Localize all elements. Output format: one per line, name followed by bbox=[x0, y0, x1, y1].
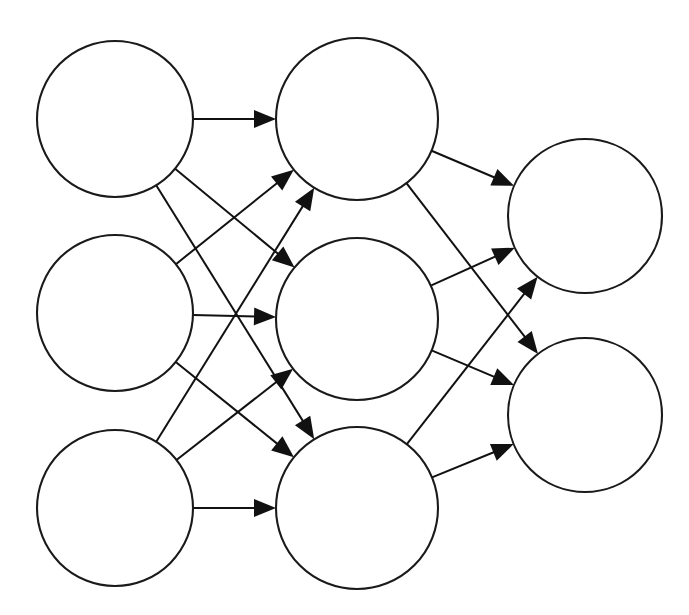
edge-i2-to-h3 bbox=[176, 362, 284, 449]
arrowhead-i2-to-h1 bbox=[271, 170, 294, 191]
arrowhead-h2-to-o1 bbox=[491, 248, 515, 265]
edge-h2-to-o1 bbox=[431, 253, 503, 285]
edge-i2-to-h2 bbox=[193, 315, 262, 317]
node-i3[interactable] bbox=[37, 430, 193, 586]
arrowhead-h1-to-o1 bbox=[490, 169, 514, 186]
arrowhead-i3-to-h3 bbox=[254, 499, 276, 517]
arrowhead-h2-to-o2 bbox=[490, 368, 514, 385]
node-h3[interactable] bbox=[276, 427, 438, 589]
neural-network-diagram bbox=[0, 0, 689, 615]
nodes-group bbox=[37, 38, 662, 589]
arrowhead-h1-to-o2 bbox=[517, 331, 538, 354]
edge-h3-to-o2 bbox=[432, 449, 501, 477]
edge-i1-to-h2 bbox=[175, 169, 284, 259]
neural-network-canvas bbox=[0, 0, 689, 615]
node-h1[interactable] bbox=[276, 38, 438, 200]
edge-h2-to-o2 bbox=[432, 350, 502, 379]
arrowhead-h3-to-o1 bbox=[517, 277, 538, 300]
arrowhead-h3-to-o2 bbox=[490, 444, 514, 461]
node-o2[interactable] bbox=[508, 338, 662, 492]
node-i2[interactable] bbox=[37, 235, 193, 391]
arrowhead-i1-to-h3 bbox=[295, 416, 314, 439]
node-o1[interactable] bbox=[508, 139, 662, 293]
arrowhead-i3-to-h1 bbox=[295, 188, 314, 211]
arrowhead-i2-to-h3 bbox=[271, 436, 294, 457]
node-h2[interactable] bbox=[276, 238, 438, 400]
arrowhead-i3-to-h2 bbox=[270, 369, 293, 390]
arrowhead-i1-to-h1 bbox=[254, 110, 276, 128]
arrowhead-i2-to-h2 bbox=[254, 307, 276, 325]
edge-i3-to-h2 bbox=[176, 377, 282, 460]
edge-h1-to-o1 bbox=[432, 151, 502, 181]
edge-i2-to-h1 bbox=[176, 178, 283, 264]
node-i1[interactable] bbox=[37, 41, 193, 197]
